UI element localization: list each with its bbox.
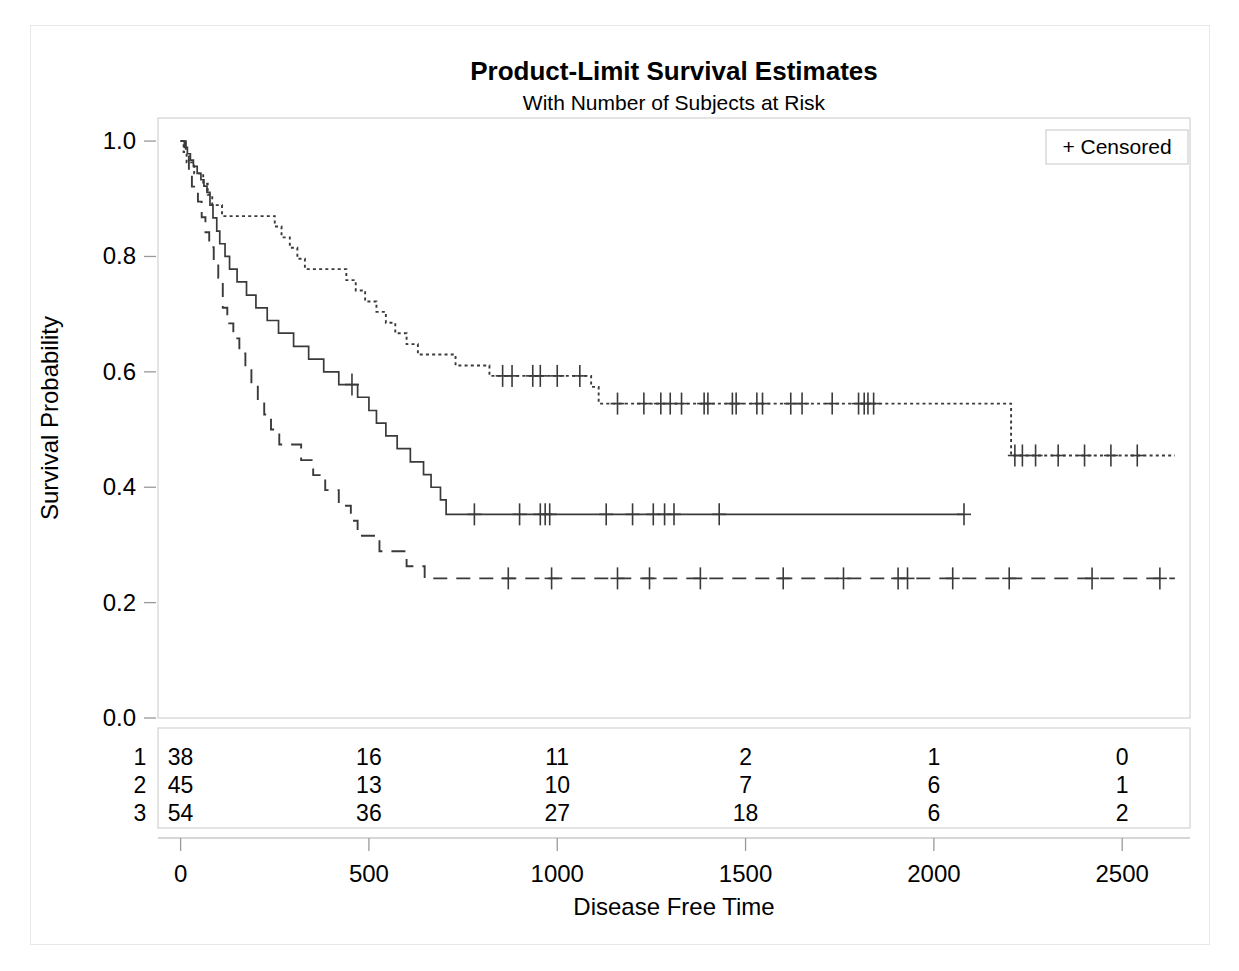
risk-count: 45 [168, 772, 194, 798]
risk-count: 0 [1116, 744, 1129, 770]
risk-count: 2 [739, 744, 752, 770]
plot-frame [158, 118, 1190, 718]
y-axis: 0.00.20.40.60.81.0 [103, 127, 156, 731]
risk-count: 13 [356, 772, 382, 798]
legend: + Censored [1046, 130, 1188, 164]
survival-curves [181, 141, 1175, 578]
x-tick-label: 0 [174, 860, 187, 887]
risk-count: 54 [168, 800, 194, 826]
survival-chart-page: Product-Limit Survival Estimates With Nu… [0, 0, 1239, 971]
risk-table-frame [158, 728, 1190, 828]
risk-row-label-1: 1 [134, 744, 147, 770]
x-tick-label: 1000 [531, 860, 584, 887]
risk-count: 27 [544, 800, 570, 826]
x-tick-label: 500 [349, 860, 389, 887]
risk-count: 18 [733, 800, 759, 826]
x-tick-label: 2000 [907, 860, 960, 887]
y-tick-label: 1.0 [103, 127, 136, 154]
risk-count: 16 [356, 744, 382, 770]
y-tick-label: 0.2 [103, 589, 136, 616]
risk-count: 36 [356, 800, 382, 826]
x-tick-label: 1500 [719, 860, 772, 887]
y-tick-label: 0.6 [103, 358, 136, 385]
risk-count: 6 [927, 800, 940, 826]
y-tick-label: 0.0 [103, 704, 136, 731]
censor-marks [345, 365, 1167, 590]
risk-count: 11 [545, 744, 569, 770]
product-limit-survival-chart: Product-Limit Survival Estimates With Nu… [0, 0, 1239, 971]
risk-count: 7 [739, 772, 752, 798]
survival-curve-stratum-1 [181, 141, 1175, 578]
risk-count: 1 [1116, 772, 1129, 798]
legend-censored-label: + Censored [1062, 135, 1171, 158]
survival-curve-stratum-2 [181, 141, 964, 514]
chart-title: Product-Limit Survival Estimates [470, 56, 877, 86]
y-axis-label: Survival Probability [36, 316, 63, 520]
x-axis: 05001000150020002500 [158, 838, 1190, 887]
x-tick-label: 2500 [1096, 860, 1149, 887]
risk-count: 6 [927, 772, 940, 798]
risk-row-label-3: 3 [134, 800, 147, 826]
x-axis-label: Disease Free Time [573, 893, 774, 920]
risk-count: 1 [927, 744, 940, 770]
risk-row-label-2: 2 [134, 772, 147, 798]
survival-curve-stratum-3 [181, 141, 1175, 455]
risk-count: 10 [544, 772, 570, 798]
risk-count: 38 [168, 744, 194, 770]
risk-count: 2 [1116, 800, 1129, 826]
chart-subtitle: With Number of Subjects at Risk [523, 91, 826, 114]
y-tick-label: 0.4 [103, 473, 136, 500]
y-tick-label: 0.8 [103, 242, 136, 269]
risk-table: 1381611210245131076135436271862 [134, 744, 1129, 826]
